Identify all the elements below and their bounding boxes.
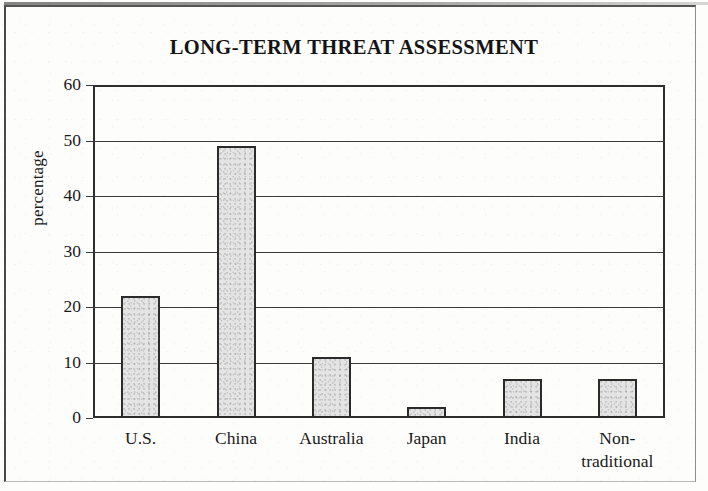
y-axis-tick-mark bbox=[86, 418, 93, 419]
y-axis-tick-mark bbox=[86, 85, 93, 86]
gridline bbox=[93, 196, 665, 197]
bar bbox=[217, 146, 256, 418]
y-axis-tick-mark bbox=[86, 196, 93, 197]
chart-title: LONG-TERM THREAT ASSESSMENT bbox=[0, 36, 708, 59]
gridline bbox=[93, 307, 665, 308]
y-axis-tick-mark bbox=[86, 141, 93, 142]
y-axis-tick-label: 10 bbox=[35, 352, 81, 373]
y-axis-tick-label: 30 bbox=[35, 241, 81, 262]
bar bbox=[407, 407, 446, 418]
bar bbox=[503, 379, 542, 418]
plot-area bbox=[93, 85, 665, 418]
y-axis-tick-label: 20 bbox=[35, 296, 81, 317]
x-axis-category-label-line2: traditional bbox=[542, 450, 692, 473]
y-axis-tick-label: 50 bbox=[35, 130, 81, 151]
bar bbox=[598, 379, 637, 418]
gridline bbox=[93, 252, 665, 253]
gridline bbox=[93, 141, 665, 142]
y-axis-tick-label: 40 bbox=[35, 185, 81, 206]
x-axis-category-label: Non-traditional bbox=[542, 427, 692, 473]
page-scan-edge bbox=[4, 2, 708, 5]
y-axis-tick-mark bbox=[86, 363, 93, 364]
y-axis-tick-label: 0 bbox=[35, 407, 81, 428]
gridline bbox=[93, 363, 665, 364]
y-axis-tick-mark bbox=[86, 307, 93, 308]
chart-page: LONG-TERM THREAT ASSESSMENT percentage 6… bbox=[0, 0, 708, 491]
y-axis-tick-label: 60 bbox=[35, 74, 81, 95]
bar bbox=[121, 296, 160, 418]
y-axis-tick-mark bbox=[86, 252, 93, 253]
bar bbox=[312, 357, 351, 418]
